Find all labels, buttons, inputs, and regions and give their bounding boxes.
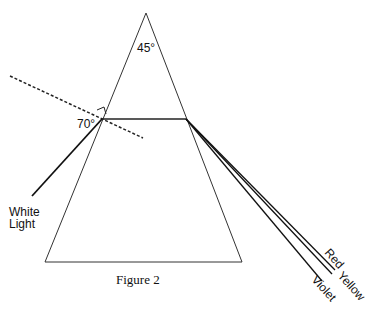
right-angle-marker	[97, 107, 106, 114]
figure-caption: Figure 2	[116, 272, 160, 287]
prism-svg: 45° 70° White Light Figure 2 Red Yellow …	[0, 0, 370, 312]
apex-angle-label: 45°	[137, 41, 155, 55]
incidence-angle-label: 70°	[77, 117, 95, 131]
violet-ray	[186, 119, 322, 281]
yellow-ray	[186, 119, 332, 274]
red-ray	[186, 119, 335, 270]
prism-diagram: 45° 70° White Light Figure 2 Red Yellow …	[0, 0, 370, 312]
yellow-label: Yellow	[335, 269, 369, 304]
white-label-line2: Light	[9, 217, 36, 231]
